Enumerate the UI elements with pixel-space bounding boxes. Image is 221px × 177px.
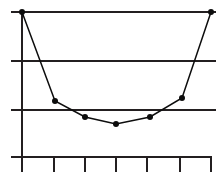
data-point-0 (19, 9, 25, 15)
line-chart (0, 0, 221, 177)
data-point-4 (147, 114, 153, 120)
data-point-6 (208, 9, 214, 15)
data-point-3 (113, 121, 119, 127)
data-point-5 (179, 95, 185, 101)
chart-background (0, 0, 221, 177)
chart-container (0, 0, 221, 177)
data-point-1 (52, 98, 58, 104)
data-point-2 (82, 114, 88, 120)
